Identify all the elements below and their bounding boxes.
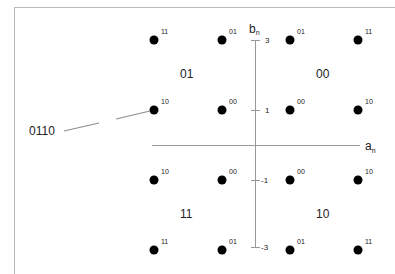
constellation-diagram: 3 1 -1 -3 bn an 01 00 11 10 11 01 01 11 … bbox=[0, 0, 395, 274]
point-label: 10 bbox=[161, 98, 169, 105]
point-label: 01 bbox=[297, 238, 305, 245]
point-label: 00 bbox=[297, 168, 305, 175]
point-label: 00 bbox=[229, 98, 237, 105]
point-dot bbox=[354, 106, 363, 115]
point-label: 11 bbox=[365, 28, 372, 35]
point-dot bbox=[150, 106, 159, 115]
tick-label-neg3: -3 bbox=[261, 243, 269, 252]
quadrant-label-top-right: 00 bbox=[316, 67, 330, 81]
point-label: 01 bbox=[297, 28, 305, 35]
point-label: 01 bbox=[229, 238, 237, 245]
point-dot bbox=[286, 176, 295, 185]
point-label: 11 bbox=[161, 28, 168, 35]
point-dot bbox=[218, 176, 227, 185]
point-dot bbox=[150, 246, 159, 255]
point-label: 00 bbox=[229, 168, 237, 175]
point-label: 11 bbox=[161, 238, 168, 245]
callout-leader-line bbox=[64, 123, 99, 131]
quadrant-label-top-left: 01 bbox=[180, 67, 194, 81]
point-label: 00 bbox=[297, 98, 305, 105]
point-label: 10 bbox=[161, 168, 169, 175]
horizontal-axis-label: an bbox=[365, 139, 376, 154]
point-dot bbox=[150, 36, 159, 45]
point-dot bbox=[354, 246, 363, 255]
point-label: 01 bbox=[229, 28, 237, 35]
point-dot bbox=[354, 176, 363, 185]
point-dot bbox=[218, 106, 227, 115]
callout-label: 0110 bbox=[29, 124, 55, 138]
point-dot bbox=[354, 36, 363, 45]
point-dot bbox=[286, 246, 295, 255]
callout-leader-line bbox=[116, 111, 150, 119]
tick-label-neg1: -1 bbox=[261, 176, 269, 185]
point-label: 11 bbox=[365, 238, 372, 245]
vertical-axis-label: bn bbox=[249, 22, 260, 36]
point-label: 10 bbox=[365, 168, 373, 175]
quadrant-label-bottom-left: 11 bbox=[180, 207, 193, 221]
point-dot bbox=[150, 176, 159, 185]
point-dot bbox=[218, 36, 227, 45]
tick-label-1: 1 bbox=[265, 106, 270, 115]
quadrant-label-bottom-right: 10 bbox=[316, 207, 330, 221]
point-dot bbox=[286, 106, 295, 115]
point-label: 10 bbox=[365, 98, 373, 105]
point-dot bbox=[218, 246, 227, 255]
tick-label-3: 3 bbox=[265, 36, 270, 45]
point-dot bbox=[286, 36, 295, 45]
